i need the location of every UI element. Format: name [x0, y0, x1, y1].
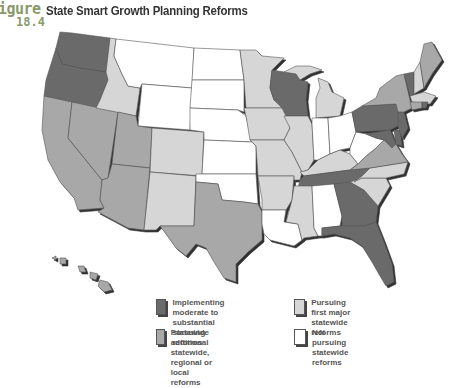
legend-label-line2: statewide reforms — [312, 348, 355, 368]
legend-label-line1: Not pursuing — [312, 328, 355, 348]
state-colorado[interactable] — [150, 128, 204, 176]
legend-label-line1: Pursuing additional statewide, — [171, 328, 219, 358]
state-north-dakota[interactable] — [192, 48, 244, 80]
legend-item-additional: Pursuing additional statewide, regional … — [156, 328, 219, 388]
state-montana[interactable] — [114, 39, 194, 88]
legend-label-line1: Pursuing first major — [311, 298, 354, 318]
legend-label-line2: regional or local reforms — [171, 358, 219, 388]
state-maine[interactable] — [420, 42, 442, 88]
state-wyoming[interactable] — [138, 84, 192, 130]
state-indiana[interactable] — [312, 118, 330, 160]
state-iowa[interactable] — [244, 108, 290, 140]
legend-swatch-not-pursuing — [294, 329, 306, 345]
legend-item-not-pursuing: Not pursuing statewide reforms — [294, 328, 354, 368]
state-arkansas[interactable] — [258, 176, 294, 210]
state-rhode-island[interactable] — [422, 102, 428, 108]
legend-swatch-first-major — [294, 299, 305, 315]
state-pennsylvania[interactable] — [352, 104, 400, 132]
state-hawaii[interactable] — [52, 256, 112, 292]
state-new-mexico[interactable] — [144, 172, 196, 230]
state-connecticut[interactable] — [410, 102, 422, 110]
legend-swatch-additional — [156, 329, 165, 345]
state-florida[interactable] — [322, 222, 394, 286]
legend-label-line1: Implementing moderate to — [172, 298, 232, 318]
state-kansas[interactable] — [202, 140, 256, 174]
state-south-dakota[interactable] — [190, 80, 244, 112]
legend-swatch-implementing — [156, 299, 166, 315]
